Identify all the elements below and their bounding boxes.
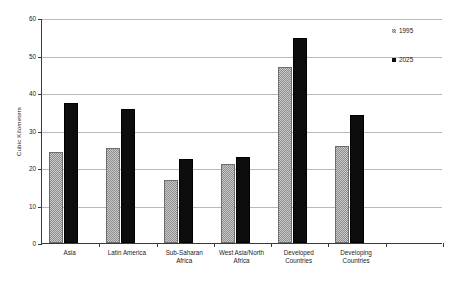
bar-group — [271, 19, 328, 243]
x-category-label-line: Developed — [267, 249, 331, 257]
legend-swatch-icon — [392, 58, 396, 62]
x-category-label-line: Countries — [267, 257, 331, 265]
bar-2025-asia — [64, 103, 78, 243]
x-category-label: Sub-SaharanAfrica — [152, 249, 216, 265]
y-tick-label: 60 — [29, 16, 36, 22]
x-category-label: Asia — [38, 249, 102, 257]
bar-2025-developing-countries — [350, 115, 364, 243]
x-category-label: DevelopedCountries — [267, 249, 331, 265]
legend-item-2025[interactable]: 2025 — [392, 56, 448, 63]
x-tick-mark — [99, 243, 100, 247]
x-category-label-line: Developing — [324, 249, 388, 257]
y-tick-label: 0 — [32, 241, 36, 247]
bar-chart: Cubic Kilometers 0102030405060 19952025 … — [0, 0, 451, 281]
legend-item-1995[interactable]: 1995 — [392, 27, 448, 34]
bar-1995-developed-countries — [278, 67, 292, 243]
x-tick-mark — [443, 243, 444, 247]
bar-group — [157, 19, 214, 243]
y-tick-label: 30 — [29, 128, 36, 134]
bar-group — [99, 19, 156, 243]
legend-swatch-icon — [392, 29, 396, 33]
y-tick-label: 20 — [29, 166, 36, 172]
x-tick-mark — [271, 243, 272, 247]
x-tick-mark — [328, 243, 329, 247]
chart-legend: 19952025 — [392, 27, 448, 85]
bar-group — [214, 19, 271, 243]
bar-2025-developed-countries — [293, 38, 307, 243]
x-category-label-line: Latin America — [95, 249, 159, 257]
bar-1995-developing-countries — [335, 146, 349, 243]
x-tick-mark — [157, 243, 158, 247]
x-category-label: West Asia/NorthAfrica — [210, 249, 274, 265]
x-category-label-line: West Asia/North — [210, 249, 274, 257]
x-tick-mark — [214, 243, 215, 247]
x-category-label-line: Countries — [324, 257, 388, 265]
bar-1995-west-asia-north-africa — [221, 164, 235, 243]
y-tick-label: 50 — [29, 53, 36, 59]
x-category-label-line: Africa — [210, 257, 274, 265]
y-tick-mark — [38, 244, 42, 245]
bar-group — [328, 19, 385, 243]
x-category-label-line: Sub-Saharan — [152, 249, 216, 257]
x-category-label-line: Africa — [152, 257, 216, 265]
y-tick-label: 10 — [29, 203, 36, 209]
y-axis-title: Cubic Kilometers — [15, 72, 22, 192]
bar-1995-sub-saharan-africa — [164, 180, 178, 243]
x-category-label: Latin America — [95, 249, 159, 257]
bar-2025-west-asia-north-africa — [236, 157, 250, 243]
legend-label: 2025 — [399, 56, 413, 63]
bar-2025-latin-america — [121, 109, 135, 243]
x-category-label: DevelopingCountries — [324, 249, 388, 265]
legend-label: 1995 — [399, 27, 413, 34]
bar-2025-sub-saharan-africa — [179, 159, 193, 243]
y-tick-label: 40 — [29, 91, 36, 97]
bar-group — [42, 19, 99, 243]
x-category-label-line: Asia — [38, 249, 102, 257]
bar-1995-latin-america — [106, 148, 120, 243]
plot-area: 0102030405060 — [41, 19, 442, 244]
bar-1995-asia — [49, 152, 63, 243]
x-tick-mark — [386, 243, 387, 247]
